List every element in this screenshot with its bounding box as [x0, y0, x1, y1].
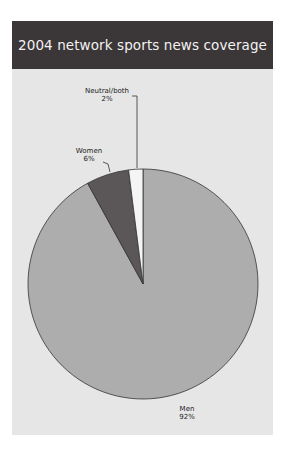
label-neutral-name: Neutral/both — [82, 87, 132, 95]
label-neutral-pct: 2% — [82, 95, 132, 103]
pie-chart — [0, 0, 288, 458]
leader-line-women — [103, 162, 110, 172]
leader-line-neutral — [132, 96, 137, 168]
label-men-name: Men — [172, 405, 202, 413]
label-men-pct: 92% — [172, 413, 202, 421]
label-men: Men 92% — [172, 405, 202, 421]
label-women-name: Women — [72, 147, 106, 155]
label-women: Women 6% — [72, 147, 106, 163]
label-neutral: Neutral/both 2% — [82, 87, 132, 103]
label-women-pct: 6% — [72, 155, 106, 163]
